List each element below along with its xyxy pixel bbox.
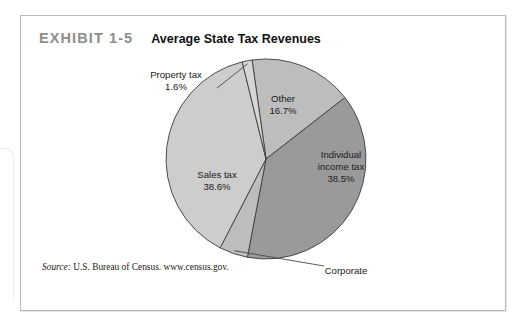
page-edge-artifact: [0, 148, 14, 300]
pie-label-text: 38.6%: [203, 181, 231, 192]
pie-chart-svg: Other16.7%Individualincome tax38.5%Corpo…: [21, 46, 504, 276]
source-note: Source: U.S. Bureau of Census. www.censu…: [42, 262, 229, 272]
pie-label-text: 1.6%: [165, 81, 187, 92]
exhibit-header: EXHIBIT 1-5 Average State Tax Revenues: [39, 30, 321, 46]
exhibit-frame: EXHIBIT 1-5 Average State Tax Revenues O…: [20, 15, 506, 311]
pie-label-text: Other: [271, 93, 296, 104]
pie-label-text: Property tax: [150, 69, 202, 80]
pie-label-text: Corporate: [325, 265, 368, 276]
pie-label-text: 16.7%: [269, 105, 297, 116]
pie-label-text: 38.5%: [327, 173, 355, 184]
pie-label-text: Individual: [321, 149, 362, 160]
pie-label-text: income tax: [318, 161, 365, 172]
source-prefix: Source:: [42, 262, 71, 272]
pie-chart: Other16.7%Individualincome tax38.5%Corpo…: [21, 46, 504, 276]
exhibit-number-label: EXHIBIT 1-5: [39, 30, 133, 46]
pie-label-text: Sales tax: [197, 169, 237, 180]
source-text: U.S. Bureau of Census. www.census.gov.: [73, 262, 229, 272]
exhibit-title: Average State Tax Revenues: [151, 32, 321, 46]
